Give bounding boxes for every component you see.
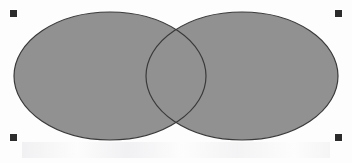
selection-handle-bottom-left[interactable] <box>10 134 17 141</box>
venn-diagram-surface[interactable] <box>0 0 352 163</box>
right-ellipse[interactable] <box>146 12 338 140</box>
selection-handle-bottom-right[interactable] <box>335 134 342 141</box>
selection-handle-top-left[interactable] <box>10 10 17 17</box>
selection-handle-top-right[interactable] <box>335 10 342 17</box>
drawing-canvas[interactable] <box>0 0 352 163</box>
